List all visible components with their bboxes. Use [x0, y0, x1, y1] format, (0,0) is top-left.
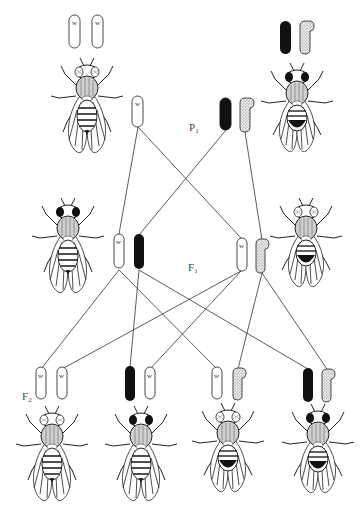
p-male-chromosomes: [280, 21, 314, 54]
fly-p-male-red-eyed: [261, 63, 333, 152]
line-f1female-black-to-f2b: [130, 270, 139, 367]
line-pmale-y-to-f1male: [245, 132, 262, 240]
line-f1female-black-to-f2d: [139, 270, 308, 369]
fly-f2-male-white-eyed: [192, 403, 264, 492]
fly-f1-female-red-eyed: [32, 198, 104, 293]
line-pfemale-x-to-f1female: [119, 127, 138, 234]
chromosome-x-black: [125, 366, 135, 401]
fly-f2-female-red-eyed: [105, 406, 177, 501]
line-f1female-w-to-f2c: [119, 270, 217, 369]
chromosome-y-dotted: [322, 369, 335, 402]
f2-a-chromosomes: w w: [36, 367, 67, 399]
label-f2: F2: [22, 390, 32, 404]
chromosome-y-dotted: [300, 21, 314, 54]
p-female-chromosomes: w w: [69, 15, 103, 48]
line-f1male-w-to-f2b: [150, 271, 241, 369]
chromosome-y-dotted: [256, 239, 269, 273]
fly-f2-male-red-eyed: [282, 404, 354, 493]
fly-f1-male-white-eyed: [270, 198, 342, 287]
line-f1male-y-to-f2d: [262, 273, 327, 369]
label-f1: F1: [188, 261, 198, 275]
line-f1male-w-to-f2a: [62, 271, 241, 369]
chromosome-x-black: [280, 21, 291, 54]
f2-c-chromosomes: w: [212, 367, 246, 400]
line-pfemale-x-to-f1male: [138, 127, 241, 238]
inheritance-diagram: P1 F1 F2 w w w w w: [0, 0, 363, 524]
chromosome-y-dotted: [233, 368, 246, 400]
fly-f2-female-white-eyed: [16, 406, 88, 501]
fly-p-female-white-eyed: [51, 58, 123, 153]
f1-male-chromosomes: w: [237, 238, 269, 273]
chromosome-x-black: [303, 368, 313, 402]
f1-female-chromosomes: w: [114, 234, 144, 269]
line-f1male-y-to-f2c: [238, 273, 262, 369]
f2-d-chromosomes: [303, 368, 335, 402]
f2-b-chromosomes: w: [125, 366, 155, 401]
inheritance-lines: [41, 127, 327, 369]
chromosome-x-black: [134, 234, 144, 269]
gamete-x-black: [220, 98, 231, 130]
label-p1: P1: [189, 121, 199, 135]
line-pmale-x-to-f1female: [139, 130, 226, 235]
gamete-y-dotted: [240, 98, 254, 132]
